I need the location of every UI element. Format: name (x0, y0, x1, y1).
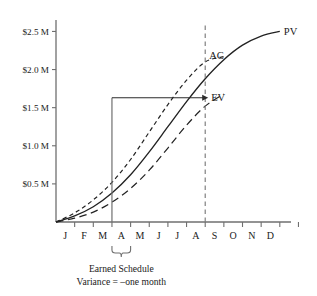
pv-series-label: PV (284, 26, 298, 37)
y-tick-label: $0.5 M (22, 179, 49, 189)
y-tick-label: $1.5 M (22, 103, 49, 113)
y-tick-label: $1.0 M (22, 141, 49, 151)
earned-schedule-brace (112, 246, 131, 257)
x-tick-label: D (267, 230, 274, 241)
actual-cost-curve (56, 57, 224, 222)
x-tick-label: J (175, 230, 179, 241)
x-tick-label: N (248, 230, 255, 241)
earned-value-chart: $0.5 M$1.0 M$1.5 M$2.0 M$2.5 M JFMAMJJAS… (0, 0, 317, 296)
x-tick-label: A (192, 230, 200, 241)
y-tick-label: $2.0 M (22, 65, 49, 75)
ac-series-label: AC (209, 50, 224, 61)
chart-svg: $0.5 M$1.0 M$1.5 M$2.0 M$2.5 M JFMAMJJAS… (0, 0, 317, 296)
x-tick-label: M (135, 230, 144, 241)
caption-line-2: Variance = –one month (77, 276, 167, 287)
x-axis-ticks (75, 222, 299, 227)
x-tick-label: F (81, 230, 87, 241)
planned-value-curve (56, 31, 280, 222)
x-tick-label: A (118, 230, 126, 241)
y-tick-label: $2.5 M (22, 27, 49, 37)
x-tick-label: J (157, 230, 161, 241)
x-tick-label: S (212, 230, 218, 241)
earned-value-curve (56, 94, 224, 222)
y-axis-tick-labels: $0.5 M$1.0 M$1.5 M$2.0 M$2.5 M (22, 27, 49, 189)
x-tick-label: M (98, 230, 107, 241)
caption-line-1: Earned Schedule (89, 263, 154, 274)
x-axis-tick-labels: JFMAMJJASOND (63, 230, 274, 241)
ev-series-label: EV (211, 92, 225, 103)
x-tick-label: O (230, 230, 237, 241)
x-tick-label: J (63, 230, 67, 241)
